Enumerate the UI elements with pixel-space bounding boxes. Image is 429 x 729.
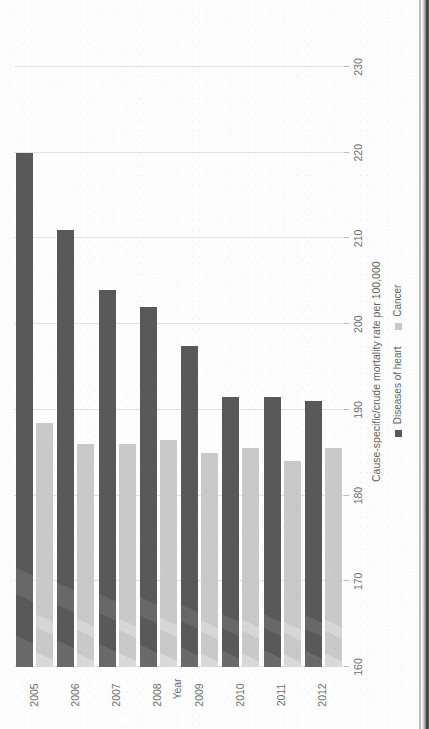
bar-chart: Cause-specific/crude mortality rate per … [0, 0, 418, 729]
legend-swatch-cancer-icon [395, 323, 402, 330]
bar-group-2009 [179, 67, 220, 667]
bar-group-2010 [220, 67, 261, 667]
bar-cancer-2007 [119, 444, 136, 667]
page-binding-edge [421, 0, 429, 729]
legend-label-heart: Diseases of heart [392, 346, 403, 424]
tick-mark-160 [344, 666, 349, 667]
value-tick-label-220: 220 [352, 133, 364, 173]
bar-heart-2011 [264, 397, 281, 667]
legend-item-heart: Diseases of heart [392, 346, 403, 437]
value-tick-label-200: 200 [352, 304, 364, 344]
category-label-2007: 2007 [110, 673, 122, 717]
rotated-chart-wrapper: Cause-specific/crude mortality rate per … [0, 0, 418, 729]
bar-heart-2006 [57, 230, 74, 667]
legend-label-cancer: Cancer [392, 285, 403, 317]
tick-mark-210 [344, 237, 349, 238]
plot-area [14, 67, 344, 667]
bar-cancer-2009 [201, 453, 218, 667]
x-axis-title: Year [171, 649, 183, 729]
y-axis-title: Cause-specific/crude mortality rate per … [370, 261, 382, 482]
value-tick-label-230: 230 [352, 47, 364, 87]
category-label-2006: 2006 [69, 673, 81, 717]
bar-group-2012 [303, 67, 344, 667]
bar-cancer-2005 [36, 423, 53, 667]
scanned-page: Cause-specific/crude mortality rate per … [0, 0, 429, 729]
bar-group-2006 [55, 67, 96, 667]
category-label-2008: 2008 [151, 673, 163, 717]
tick-mark-220 [344, 152, 349, 153]
category-label-2012: 2012 [316, 673, 328, 717]
value-tick-label-170: 170 [352, 561, 364, 601]
tick-mark-190 [344, 409, 349, 410]
bar-heart-2007 [99, 290, 116, 667]
bar-heart-2012 [305, 401, 322, 667]
tick-mark-180 [344, 495, 349, 496]
category-label-2005: 2005 [28, 673, 40, 717]
category-label-2009: 2009 [193, 673, 205, 717]
bar-heart-2009 [181, 346, 198, 667]
value-tick-label-160: 160 [352, 647, 364, 687]
legend-swatch-heart-icon [395, 430, 402, 437]
bar-cancer-2006 [77, 444, 94, 667]
bar-cancer-2010 [242, 448, 259, 667]
value-tick-label-190: 190 [352, 390, 364, 430]
bar-heart-2005 [16, 153, 33, 667]
bar-group-2007 [97, 67, 138, 667]
tick-mark-230 [344, 66, 349, 67]
bar-group-2008 [138, 67, 179, 667]
value-tick-label-210: 210 [352, 218, 364, 258]
tick-mark-200 [344, 323, 349, 324]
bar-cancer-2011 [284, 461, 301, 667]
value-tick-label-180: 180 [352, 476, 364, 516]
bar-group-2005 [14, 67, 55, 667]
category-label-2010: 2010 [234, 673, 246, 717]
bar-heart-2008 [140, 307, 157, 667]
tick-mark-170 [344, 580, 349, 581]
bar-cancer-2008 [160, 440, 177, 667]
bar-group-2011 [262, 67, 303, 667]
bar-cancer-2012 [325, 448, 342, 667]
legend-item-cancer: Cancer [392, 285, 403, 330]
category-label-2011: 2011 [275, 673, 287, 717]
chart-legend: Diseases of heart Cancer [392, 271, 403, 437]
bar-heart-2010 [222, 397, 239, 667]
